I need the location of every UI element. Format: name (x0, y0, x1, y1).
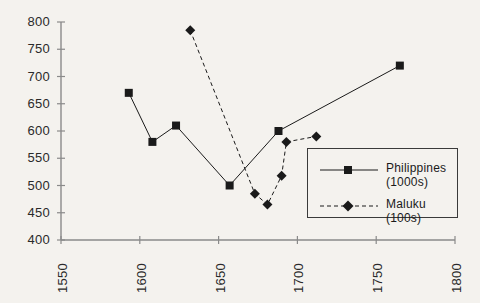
data-point-marker (125, 89, 133, 97)
y-tick-label: 700 (8, 69, 50, 84)
x-tick-label: 1750 (370, 263, 385, 293)
y-tick-label: 400 (8, 232, 50, 247)
x-tick-label: 1550 (55, 263, 70, 293)
data-point-marker (250, 189, 260, 199)
legend-label-philippines: Philippines (1000s) (386, 161, 446, 189)
data-point-marker (262, 200, 272, 210)
data-point-marker (396, 62, 404, 70)
y-tick-label: 650 (8, 96, 50, 111)
y-tick-label: 500 (8, 178, 50, 193)
legend-swatch-philippines-solid-square (318, 163, 380, 177)
legend-entry-maluku: Maluku (100s) (318, 197, 457, 225)
data-point-marker (172, 122, 180, 130)
data-point-marker (311, 131, 321, 141)
data-point-marker (274, 127, 282, 135)
legend-swatch-maluku-dashed-diamond (318, 199, 380, 213)
y-tick-label: 600 (8, 123, 50, 138)
x-tick-label: 1600 (134, 263, 149, 293)
y-tick-label: 450 (8, 205, 50, 220)
x-tick-label: 1700 (291, 263, 306, 293)
legend-entry-philippines: Philippines (1000s) (318, 161, 446, 189)
data-point-marker (277, 171, 287, 181)
chart-container: 400450500550600650700750800 155016001650… (0, 0, 480, 303)
data-point-marker (148, 138, 156, 146)
chart-legend: Philippines (1000s) Maluku (100s) (307, 148, 458, 218)
legend-label-maluku: Maluku (100s) (386, 197, 457, 225)
data-point-marker (281, 137, 291, 147)
y-tick-label: 750 (8, 41, 50, 56)
x-tick-label: 1800 (449, 263, 464, 293)
data-point-marker (226, 182, 234, 190)
x-tick-label: 1650 (213, 263, 228, 293)
y-tick-label: 800 (8, 14, 50, 29)
y-tick-label: 550 (8, 150, 50, 165)
series-line-1 (190, 30, 316, 204)
data-point-marker (185, 25, 195, 35)
